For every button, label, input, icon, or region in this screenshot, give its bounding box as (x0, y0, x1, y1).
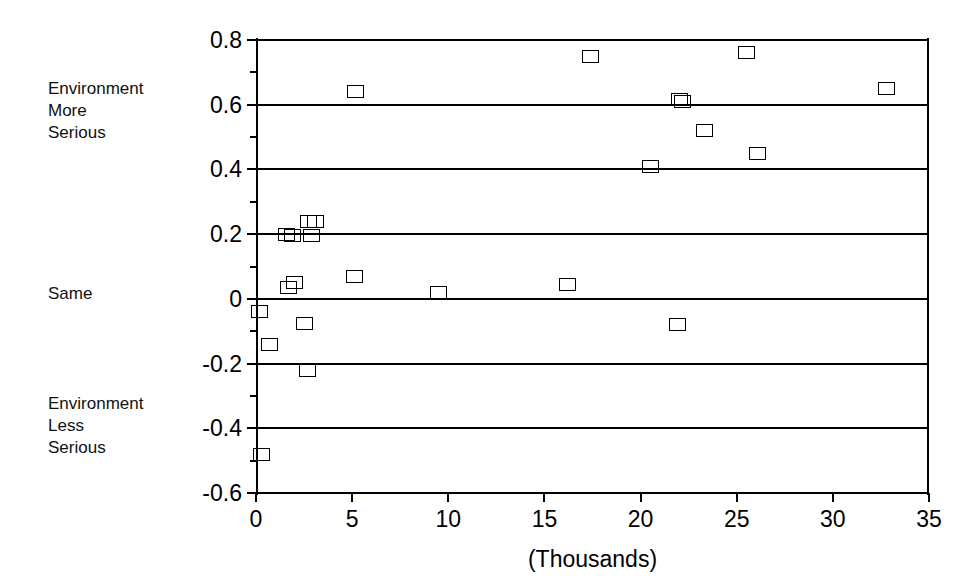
data-point (749, 147, 766, 160)
plot-area: -0.6-0.4-0.200.20.40.60.8 05101520253035… (256, 40, 929, 493)
x-tick-label-0: 0 (250, 506, 263, 533)
data-point (559, 278, 576, 291)
gridline-y-0.2 (256, 233, 929, 235)
x-tick-label-5: 5 (346, 506, 359, 533)
gridline-y--0.6 (256, 492, 929, 494)
y-tick-0.6 (247, 104, 256, 106)
y-tick-label-0: 0 (229, 285, 242, 312)
gridline-y-0.8 (256, 39, 929, 41)
data-point (430, 286, 447, 299)
x-tick-label-10: 10 (435, 506, 461, 533)
data-point (299, 364, 316, 377)
y-tick-label--0.6: -0.6 (202, 480, 242, 507)
y-tick-label-0.6: 0.6 (210, 91, 242, 118)
data-point (253, 448, 270, 461)
y-tick-label-0.8: 0.8 (210, 27, 242, 54)
x-tick-10 (447, 493, 449, 502)
x-tick-label-30: 30 (820, 506, 846, 533)
x-tick-label-35: 35 (916, 506, 942, 533)
y-tick-minor (250, 266, 256, 268)
gridline-y-0 (256, 298, 929, 300)
x-tick-label-15: 15 (532, 506, 558, 533)
gridline-y-0.6 (256, 104, 929, 106)
y-tick-label-0.4: 0.4 (210, 156, 242, 183)
data-point (284, 229, 301, 242)
y-category-label-same: Same (48, 283, 92, 305)
y-tick-0.2 (247, 233, 256, 235)
gridline-y-0.4 (256, 168, 929, 170)
data-point (738, 46, 755, 59)
data-point (674, 95, 691, 108)
gridline-y--0.2 (256, 363, 929, 365)
y-tick-minor (250, 71, 256, 73)
x-tick-20 (640, 493, 642, 502)
data-point (642, 160, 659, 173)
y-category-label-less-serious: Environment Less Serious (48, 393, 143, 459)
data-point (296, 317, 313, 330)
data-point (303, 229, 320, 242)
y-tick-minor (250, 395, 256, 397)
data-point (347, 85, 364, 98)
y-tick-minor (250, 136, 256, 138)
data-point (346, 270, 363, 283)
data-point (286, 276, 303, 289)
y-tick-0.8 (247, 39, 256, 41)
y-tick-label-0.2: 0.2 (210, 221, 242, 248)
y-tick-minor (250, 330, 256, 332)
x-axis-title: (Thousands) (528, 546, 657, 573)
x-tick-35 (928, 493, 930, 502)
x-tick-25 (736, 493, 738, 502)
y-tick-0.4 (247, 168, 256, 170)
x-tick-30 (832, 493, 834, 502)
y-category-label-more-serious: Environment More Serious (48, 78, 143, 144)
y-tick-0 (247, 298, 256, 300)
y-tick-label--0.2: -0.2 (202, 350, 242, 377)
y-tick-minor (250, 201, 256, 203)
y-tick-label--0.4: -0.4 (202, 415, 242, 442)
data-point (878, 82, 895, 95)
data-point (696, 124, 713, 137)
data-point (669, 318, 686, 331)
x-tick-15 (543, 493, 545, 502)
chart-canvas: Environment More Serious Same Environmen… (0, 0, 980, 582)
x-tick-0 (255, 493, 257, 502)
data-point (251, 305, 268, 318)
data-point (582, 50, 599, 63)
y-tick--0.2 (247, 363, 256, 365)
data-point (307, 215, 324, 228)
gridline-y--0.4 (256, 427, 929, 429)
x-tick-5 (351, 493, 353, 502)
data-point (261, 338, 278, 351)
x-tick-label-20: 20 (628, 506, 654, 533)
x-tick-label-25: 25 (724, 506, 750, 533)
y-tick--0.4 (247, 427, 256, 429)
